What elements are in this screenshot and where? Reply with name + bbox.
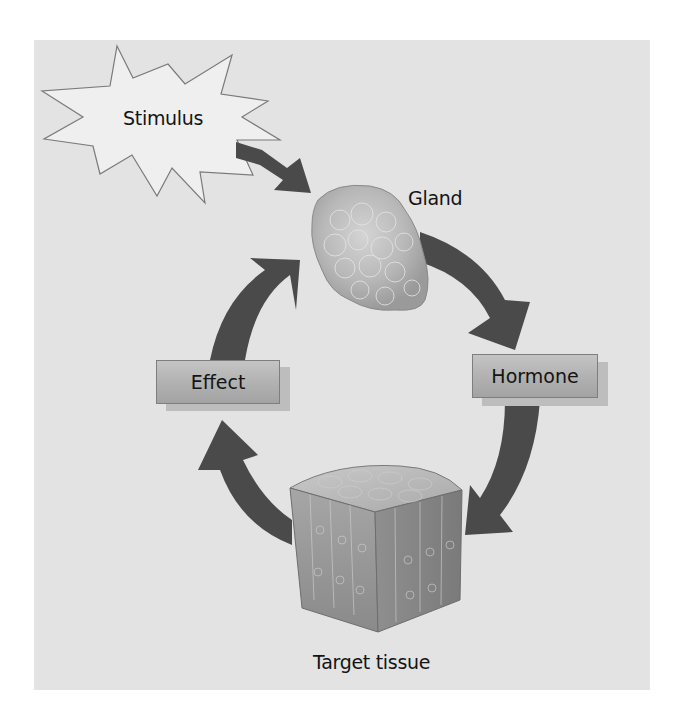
effect-label: Effect [191, 371, 246, 393]
effect-box: Effect [156, 360, 280, 404]
gland-label: Gland [408, 187, 462, 209]
target-tissue-illustration [290, 465, 462, 632]
arrow-gland-to-hormone [420, 232, 530, 350]
hormone-box: Hormone [472, 354, 598, 398]
stimulus-label: Stimulus [123, 107, 203, 129]
hormone-label: Hormone [491, 365, 578, 387]
arrow-hormone-to-tissue [465, 400, 540, 535]
arrow-tissue-to-effect [198, 420, 292, 545]
target-tissue-label: Target tissue [313, 651, 430, 673]
arrow-effect-to-gland [210, 258, 300, 360]
